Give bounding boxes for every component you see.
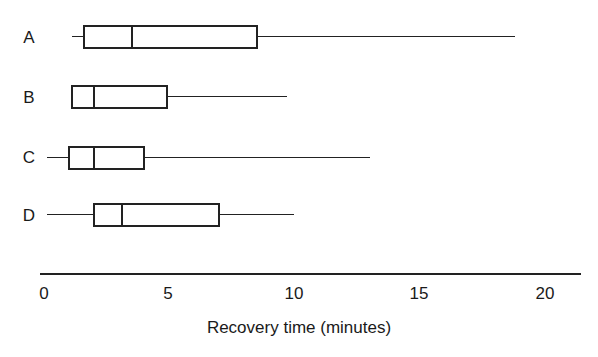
median-line — [121, 203, 123, 227]
median-line — [93, 146, 95, 170]
whisker-left — [47, 157, 70, 158]
iqr-box — [83, 25, 258, 49]
box-plot-chart: A B C D 0 5 10 15 20 Recovery time (minu… — [0, 0, 598, 357]
x-tick-label-5: 5 — [148, 285, 188, 302]
whisker-left — [47, 214, 95, 215]
x-axis-line — [40, 273, 581, 275]
whisker-right — [144, 157, 369, 158]
x-axis-title: Recovery time (minutes) — [0, 319, 598, 337]
category-label-d: D — [19, 207, 39, 224]
category-label-a: A — [19, 29, 39, 46]
iqr-box — [93, 203, 220, 227]
x-tick-label-10: 10 — [274, 285, 314, 302]
category-label-b: B — [19, 89, 39, 106]
whisker-right — [257, 36, 515, 37]
x-tick-label-15: 15 — [399, 285, 439, 302]
iqr-box — [71, 85, 168, 109]
median-line — [131, 25, 133, 49]
iqr-box — [68, 146, 145, 170]
x-tick-label-0: 0 — [24, 285, 64, 302]
category-label-c: C — [19, 149, 39, 166]
whisker-right — [219, 214, 294, 215]
x-tick-label-20: 20 — [525, 285, 565, 302]
whisker-right — [167, 96, 287, 97]
median-line — [93, 85, 95, 109]
